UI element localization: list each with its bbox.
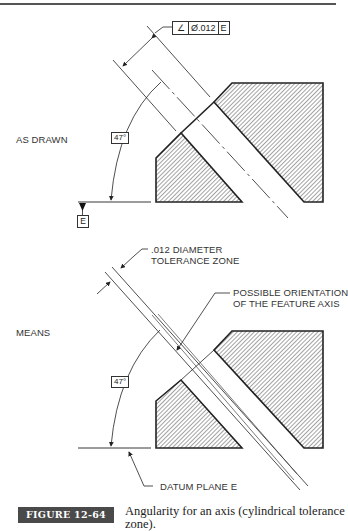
as-drawn-view (78, 26, 323, 218)
figure-number: FIGURE 12-64 (18, 507, 114, 523)
angle-box-bottom: 47° (111, 376, 129, 388)
feature-control-frame: ∠ Ø.012 E (172, 21, 230, 35)
angle-box-top: 47° (111, 132, 129, 144)
tolerance-value: Ø.012 (189, 22, 219, 34)
datum-reference: E (219, 22, 229, 34)
datum-plane-callout: DATUM PLANE E (160, 481, 237, 492)
tolerance-zone-callout: .012 DIAMETER TOLERANCE ZONE (151, 244, 239, 266)
feature-axis-callout: POSSIBLE ORIENTATION OF THE FEATURE AXIS (233, 287, 348, 309)
means-label: MEANS (16, 327, 50, 338)
datum-box: E (77, 215, 89, 228)
angularity-icon: ∠ (173, 22, 189, 34)
means-view (78, 249, 323, 490)
as-drawn-label: AS DRAWN (16, 134, 68, 145)
figure-caption: Angularity for an axis (cylindrical tole… (125, 505, 345, 531)
